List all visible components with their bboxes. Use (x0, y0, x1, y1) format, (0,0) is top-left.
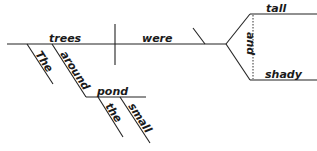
object-modifier-word-small: small (125, 101, 154, 136)
complement-word-2: shady (265, 68, 303, 81)
object-modifier-word-the: the (102, 101, 124, 126)
predicate-complement-slant (193, 28, 205, 44)
sentence-diagram: trees were and tall shady The around pon… (0, 0, 317, 151)
verb-word: were (142, 32, 173, 45)
conjunction-word: and (244, 32, 257, 55)
modifier-word-the: The (32, 49, 56, 76)
preposition-word: around (57, 49, 92, 93)
preposition-object-word: pond (96, 85, 128, 98)
subject-word: trees (49, 32, 82, 45)
complement-word-1: tall (266, 2, 286, 15)
